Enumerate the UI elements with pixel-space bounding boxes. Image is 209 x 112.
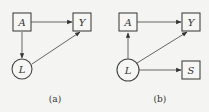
node-b-S: S [182,61,200,79]
node-b-L: L [117,59,139,81]
caption-b: (b) [154,94,167,104]
node-label: A [17,17,25,28]
diagram-b: A Y L S (b) [117,13,200,104]
edge-b-L-Y [137,32,187,63]
node-a-A: A [13,13,31,31]
node-label: A [123,17,131,28]
node-a-Y: Y [73,13,91,31]
node-label: L [18,64,26,75]
causal-diagrams: A Y L (a) A Y L S [0,0,209,112]
node-label: L [124,65,132,76]
caption-a: (a) [49,94,61,104]
diagram-a: A Y L (a) [12,13,91,104]
node-b-Y: Y [182,13,200,31]
node-label: S [188,65,195,76]
node-a-L: L [12,59,32,79]
node-b-A: A [119,13,137,31]
edge-a-L-Y [32,32,80,64]
